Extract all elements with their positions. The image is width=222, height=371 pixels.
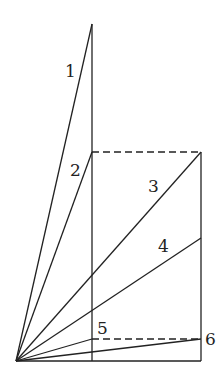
label-5: 5 <box>97 318 108 338</box>
label-3: 3 <box>148 176 159 196</box>
ray-1 <box>16 24 92 361</box>
label-4: 4 <box>158 236 169 256</box>
label-1: 1 <box>65 61 76 81</box>
label-2: 2 <box>70 160 81 180</box>
ray-2 <box>16 152 92 361</box>
ray-diagram: 1 2 3 4 5 6 <box>0 0 222 371</box>
ray-5 <box>16 339 92 361</box>
label-6: 6 <box>205 329 216 349</box>
